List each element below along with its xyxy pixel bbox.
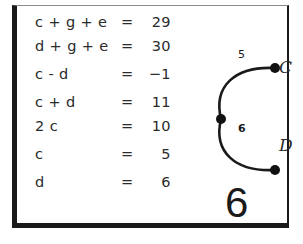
equation-list: c + g + e = 29 d + g + e = 30 c - d = −1…: [35, 14, 195, 198]
equation-row: d = 6: [35, 174, 195, 198]
node-vertex: [216, 114, 226, 124]
equation-right-side: 29: [137, 14, 171, 30]
equals-sign: =: [121, 94, 137, 110]
edge-vertex-to-C: [219, 68, 275, 119]
edge-vertex-to-D: [219, 119, 275, 170]
edge-weight-C: 5: [238, 48, 245, 61]
equation-row: c + d = 11: [35, 94, 195, 118]
figure-root: c + g + e = 29 d + g + e = 30 c - d = −1…: [0, 0, 303, 244]
equation-left-side: 2 c: [35, 118, 121, 134]
equation-left-side: c + d: [35, 94, 121, 110]
equation-left-side: c - d: [35, 66, 121, 82]
equation-right-side: 10: [137, 118, 171, 134]
slide-panel: c + g + e = 29 d + g + e = 30 c - d = −1…: [12, 5, 289, 228]
edge-weight-D: 6: [238, 122, 246, 135]
equation-row: c = 5: [35, 146, 195, 170]
equation-right-side: −1: [137, 66, 171, 82]
equals-sign: =: [121, 174, 137, 190]
equation-row: c + g + e = 29: [35, 14, 195, 38]
equals-sign: =: [121, 146, 137, 162]
equals-sign: =: [121, 14, 137, 30]
node-label-C: C: [279, 57, 292, 77]
equation-row: c - d = −1: [35, 66, 195, 90]
equals-sign: =: [121, 38, 137, 54]
equation-right-side: 6: [137, 174, 171, 190]
node-D: [270, 165, 280, 175]
equation-row: d + g + e = 30: [35, 38, 195, 62]
equals-sign: =: [121, 118, 137, 134]
equation-right-side: 11: [137, 94, 171, 110]
equation-left-side: d + g + e: [35, 38, 121, 54]
equation-left-side: d: [35, 174, 121, 190]
equals-sign: =: [121, 66, 137, 82]
equation-row: 2 c = 10: [35, 118, 195, 142]
equation-left-side: c + g + e: [35, 14, 121, 30]
equation-right-side: 5: [137, 146, 171, 162]
page-number: 6: [225, 182, 248, 224]
equation-left-side: c: [35, 146, 121, 162]
node-label-D: D: [279, 135, 293, 155]
graph-diagram: C D 5 6: [195, 46, 303, 181]
equation-right-side: 30: [137, 38, 171, 54]
